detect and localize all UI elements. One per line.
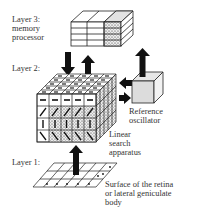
layer3-name-line2: processor xyxy=(12,33,44,42)
surface-label-line2: or lateral geniculate xyxy=(105,189,172,198)
surface-label-line1: Surface of the retina xyxy=(105,180,173,189)
layer3-name-line1: memory xyxy=(12,24,40,33)
layer2-title: Layer 2: xyxy=(12,64,40,73)
reference-oscillator-box xyxy=(132,72,163,103)
search-label-line2: search xyxy=(109,139,130,148)
oscillator-label-line1: Reference xyxy=(129,107,163,116)
linear-search-apparatus-cube xyxy=(37,74,116,142)
search-label-line3: apparatus xyxy=(109,148,141,157)
arrow-left-icon xyxy=(119,77,132,89)
search-label-line1: Linear xyxy=(109,130,131,139)
layer3-title: Layer 3: xyxy=(12,15,40,24)
surface-label-line3: body xyxy=(105,198,122,207)
arrow-right-icon xyxy=(119,92,131,104)
oscillator-label-line2: oscillator xyxy=(129,116,160,125)
arrow-down-icon xyxy=(61,52,75,76)
memory-processor-block xyxy=(71,11,133,46)
layer1-title: Layer 1: xyxy=(12,158,40,167)
